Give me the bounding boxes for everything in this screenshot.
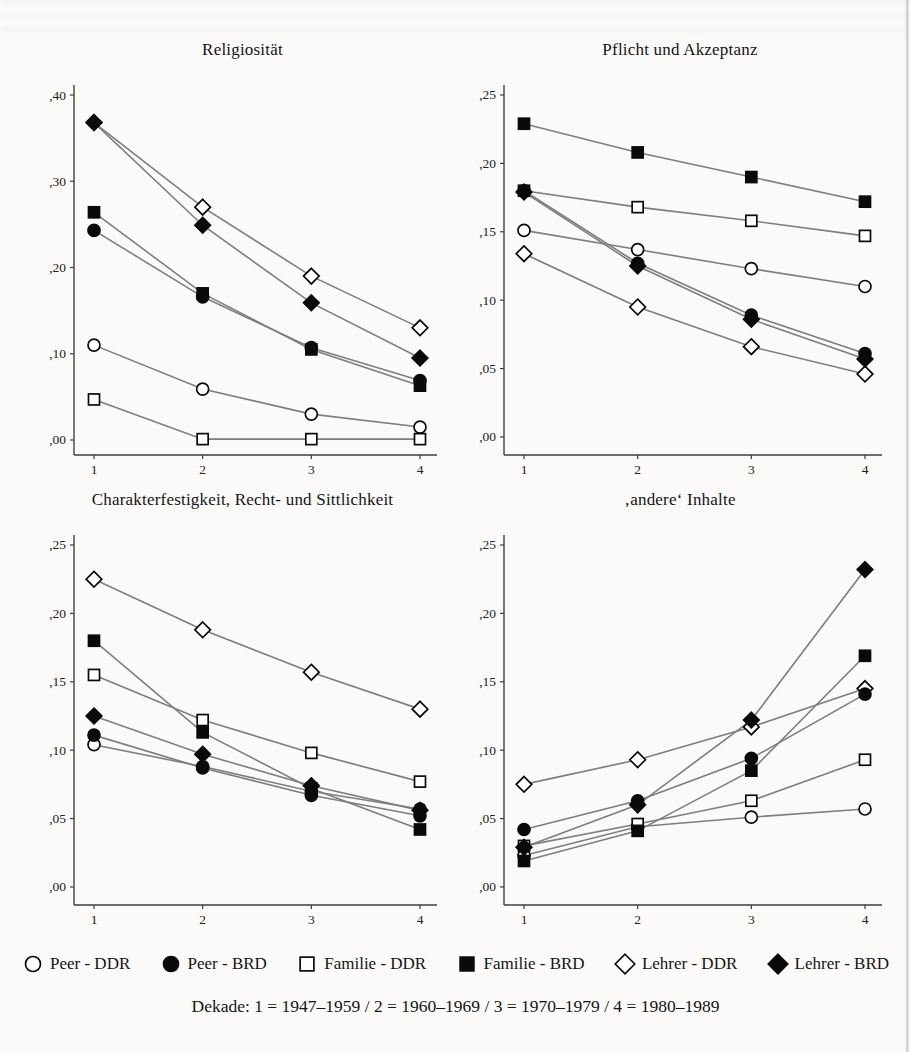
data-point-circle-filled [197,762,209,774]
legend-item-label: Familie - BRD [484,954,585,974]
data-point-diamond-open [857,366,873,382]
series-line-lehrer-ddr [94,579,420,709]
data-point-circle-open [745,811,757,823]
data-point-square-open [860,230,871,241]
series-line-familie-brd [524,656,865,861]
x-tick-label: 3 [308,912,315,927]
data-point-square-open [89,669,100,680]
data-point-circle-filled [518,823,530,835]
chart-panel-charakterfestigkeit: Charakterfestigkeit, Recht- und Sittlich… [30,490,455,930]
x-tick-label: 1 [521,912,528,927]
data-point-circle-filled [88,224,100,236]
x-tick-label: 1 [521,462,528,477]
legend-marker [460,957,474,971]
series-line-lehrer-ddr [524,689,865,785]
square-open-marker-icon [296,953,318,975]
x-tick-label: 4 [417,462,424,477]
data-point-square-open [746,795,757,806]
data-point-diamond-filled [195,746,211,762]
square-filled-marker-icon [456,953,478,975]
series-line-familie-brd [94,212,420,385]
y-tick-label: ,25 [479,87,496,102]
data-point-circle-filled [745,752,757,764]
x-tick-label: 3 [308,462,315,477]
series-line-familie-ddr [94,399,420,439]
y-tick-label: ,25 [49,537,66,552]
y-tick-label: ,20 [479,156,496,171]
series-line-peer-brd [524,191,865,354]
line-chart-charakterfestigkeit: ,00,05,10,15,20,251234 [30,520,455,928]
legend: Peer - DDRPeer - BRDFamilie - DDRFamilie… [22,948,889,980]
data-point-square-open [415,776,426,787]
data-point-diamond-open [412,320,428,336]
scanned-figure-page: Religiosität ,00,10,20,30,401234 Pflicht… [0,0,911,1052]
series-line-lehrer-ddr [94,123,420,328]
data-point-circle-open [632,244,644,256]
y-tick-label: ,00 [479,879,496,894]
data-point-circle-open [88,339,100,351]
series-line-peer-ddr [94,345,420,427]
diamond-open-marker-icon [614,953,636,975]
legend-item-label: Peer - DDR [50,954,130,974]
data-point-square-open [306,747,317,758]
data-point-square-filled [746,765,757,776]
data-point-diamond-filled [857,562,873,578]
x-tick-label: 4 [862,912,869,927]
chart-title: Religiosität [30,40,455,70]
data-point-diamond-open [304,664,320,680]
y-tick-label: ,10 [49,743,66,758]
data-point-diamond-open [516,777,532,793]
y-tick-label: ,20 [49,606,66,621]
data-point-circle-filled [859,688,871,700]
data-point-square-filled [632,147,643,158]
data-point-diamond-filled [304,295,320,311]
chart-title: Charakterfestigkeit, Recht- und Sittlich… [30,490,455,520]
legend-item-label: Familie - DDR [324,954,426,974]
y-tick-label: ,10 [49,346,66,361]
diamond-filled-marker-icon [767,953,789,975]
x-tick-label: 2 [199,462,206,477]
data-point-diamond-open [304,268,320,284]
data-point-circle-open [414,421,426,433]
y-tick-label: ,25 [479,537,496,552]
data-point-square-open [415,434,426,445]
y-tick-label: ,10 [479,293,496,308]
data-point-circle-open [859,803,871,815]
x-tick-label: 3 [748,912,755,927]
data-point-square-open [632,202,643,213]
data-point-square-filled [632,825,643,836]
legend-item-label: Lehrer - BRD [795,954,889,974]
legend-item: Familie - BRD [456,953,585,975]
data-point-square-filled [415,380,426,391]
data-point-circle-open [859,280,871,292]
y-tick-label: ,05 [479,811,496,826]
x-tick-label: 3 [748,462,755,477]
data-point-square-filled [89,207,100,218]
x-tick-label: 2 [634,462,641,477]
data-point-square-open [89,394,100,405]
y-tick-label: ,15 [49,674,66,689]
data-point-diamond-filled [412,350,428,366]
y-tick-label: ,05 [49,811,66,826]
x-tick-label: 1 [91,912,98,927]
data-point-circle-open [305,408,317,420]
data-point-square-filled [519,118,530,129]
data-point-diamond-open [86,571,102,587]
circle-filled-marker-icon [160,953,182,975]
data-point-diamond-open [195,199,211,215]
data-point-square-open [197,715,208,726]
data-point-square-open [860,754,871,765]
legend-item: Lehrer - DDR [614,953,737,975]
line-chart-pflicht-und-akzeptanz: ,00,05,10,15,20,251234 [460,70,900,478]
legend-item: Peer - BRD [160,953,267,975]
y-tick-label: ,20 [49,260,66,275]
y-tick-label: ,15 [479,224,496,239]
data-point-square-open [306,434,317,445]
chart-title: ‚andere‘ Inhalte [460,490,900,520]
x-tick-label: 2 [634,912,641,927]
chart-panel-religiositaet: Religiosität ,00,10,20,30,401234 [30,40,455,480]
circle-open-marker-icon [22,953,44,975]
data-point-circle-open [745,263,757,275]
data-point-circle-filled [88,729,100,741]
legend-marker [768,954,788,974]
